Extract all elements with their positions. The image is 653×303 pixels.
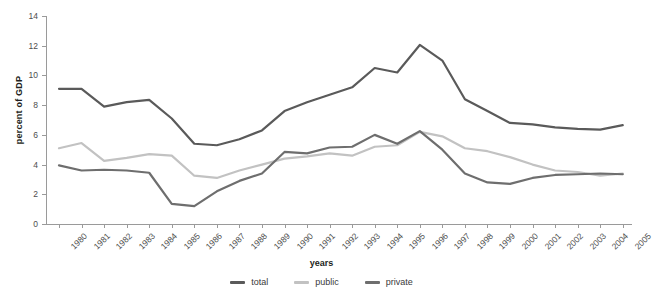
x-tick-label: 2001	[542, 231, 562, 251]
x-tick-label: 1993	[362, 231, 382, 251]
x-tick	[104, 224, 105, 228]
x-tick	[127, 224, 128, 228]
x-tick	[82, 224, 83, 228]
x-axis-title: years	[0, 258, 643, 268]
x-tick-label: 2000	[520, 231, 540, 251]
x-tick	[352, 224, 353, 228]
x-tick	[487, 224, 488, 228]
x-tick-label: 1989	[271, 231, 291, 251]
legend-swatch-icon	[365, 281, 380, 284]
legend-label: total	[251, 277, 268, 287]
series-lines	[46, 16, 632, 224]
x-tick	[442, 224, 443, 228]
x-tick	[555, 224, 556, 228]
y-tick-label: 10	[18, 70, 38, 80]
x-tick-label: 1983	[136, 231, 156, 251]
y-tick-label: 4	[18, 160, 38, 170]
y-tick-label: 14	[18, 11, 38, 21]
y-tick-label: 8	[18, 100, 38, 110]
plot-area: 02468101214 1980198119821983198419851986…	[46, 16, 632, 224]
legend-item-private[interactable]: private	[365, 277, 413, 287]
y-tick-label: 12	[18, 41, 38, 51]
x-tick-label: 2003	[587, 231, 607, 251]
x-tick	[217, 224, 218, 228]
chart-legend: totalpublicprivate	[0, 277, 643, 287]
x-tick-label: 1985	[181, 231, 201, 251]
x-tick	[533, 224, 534, 228]
x-tick-label: 2005	[632, 231, 652, 251]
x-tick-label: 1997	[452, 231, 472, 251]
x-tick-label: 1981	[91, 231, 111, 251]
x-tick	[262, 224, 263, 228]
series-line-private	[59, 131, 623, 206]
x-tick-label: 1982	[114, 231, 134, 251]
legend-item-total[interactable]: total	[230, 277, 268, 287]
x-tick	[307, 224, 308, 228]
x-tick-label: 1992	[339, 231, 359, 251]
x-tick-label: 2002	[565, 231, 585, 251]
y-tick	[42, 224, 46, 225]
x-tick	[59, 224, 60, 228]
legend-swatch-icon	[230, 281, 245, 284]
x-tick-label: 1990	[294, 231, 314, 251]
x-tick-label: 1988	[249, 231, 269, 251]
y-tick-label: 0	[18, 219, 38, 229]
series-line-public	[59, 132, 623, 178]
x-tick	[623, 224, 624, 228]
legend-label: public	[315, 277, 339, 287]
x-tick-label: 1980	[69, 231, 89, 251]
legend-swatch-icon	[294, 281, 309, 284]
x-tick-label: 1994	[384, 231, 404, 251]
x-tick-label: 1995	[407, 231, 427, 251]
x-tick	[239, 224, 240, 228]
x-tick	[397, 224, 398, 228]
x-tick	[194, 224, 195, 228]
x-tick	[600, 224, 601, 228]
x-tick-label: 1996	[429, 231, 449, 251]
x-tick-label: 2004	[610, 231, 630, 251]
y-tick-label: 6	[18, 130, 38, 140]
x-tick	[510, 224, 511, 228]
series-line-total	[59, 45, 623, 145]
x-tick	[330, 224, 331, 228]
x-tick	[375, 224, 376, 228]
x-tick	[172, 224, 173, 228]
legend-label: private	[386, 277, 413, 287]
x-tick-label: 1999	[497, 231, 517, 251]
y-tick-label: 2	[18, 189, 38, 199]
x-tick	[578, 224, 579, 228]
x-tick-label: 1991	[317, 231, 337, 251]
x-axis-line	[46, 224, 632, 225]
x-tick-label: 1998	[474, 231, 494, 251]
x-tick-label: 1986	[204, 231, 224, 251]
x-tick	[465, 224, 466, 228]
x-tick	[420, 224, 421, 228]
x-tick	[149, 224, 150, 228]
x-tick-label: 1984	[159, 231, 179, 251]
x-tick-label: 1987	[226, 231, 246, 251]
x-tick	[285, 224, 286, 228]
legend-item-public[interactable]: public	[294, 277, 339, 287]
